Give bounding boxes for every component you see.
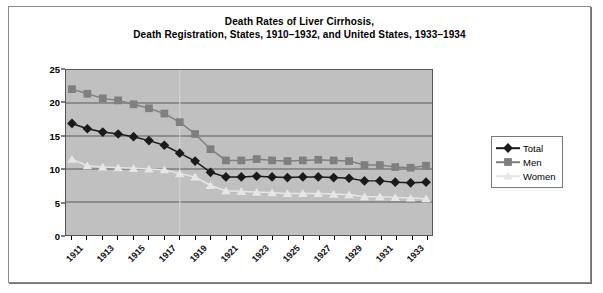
- legend-marker-diamond-icon: [496, 142, 520, 154]
- y-axis-tick-label: 15: [49, 130, 60, 141]
- x-axis-tick-label: 1925: [281, 243, 302, 264]
- y-axis-tick-label: 20: [49, 97, 60, 108]
- x-axis-tick-mark: [396, 236, 397, 240]
- x-axis-tick-label: 1923: [250, 243, 271, 264]
- chart-title-line-2: Death Registration, States, 1910–1932, a…: [9, 28, 590, 41]
- x-axis-tick-mark: [257, 236, 258, 240]
- chart-svg: [66, 70, 432, 235]
- x-axis-tick-mark: [334, 236, 335, 240]
- legend-item-men[interactable]: Men: [496, 155, 557, 169]
- y-axis-tick-mark: [61, 102, 65, 103]
- x-axis-tick-mark: [117, 236, 118, 240]
- y-axis-tick-mark: [61, 135, 65, 136]
- plot-area: [65, 69, 433, 236]
- plot-area-wrapper: Rate per 100,000 Population 0510152025 1…: [65, 69, 433, 236]
- y-axis-tick-mark: [61, 69, 65, 70]
- legend-item-women[interactable]: Women: [496, 169, 557, 183]
- x-axis-tick-mark: [272, 236, 273, 240]
- x-axis-tick-mark: [210, 236, 211, 240]
- legend-marker-square-icon: [496, 156, 520, 168]
- x-axis-tick-label: 1915: [126, 243, 147, 264]
- x-axis-tick-label: 1931: [373, 243, 394, 264]
- x-axis-tick-mark: [365, 236, 366, 240]
- y-axis-tick-label: 25: [49, 64, 60, 75]
- chart-legend: TotalMenWomen: [491, 136, 563, 188]
- x-axis-tick-label: 1911: [64, 243, 85, 264]
- x-axis-tick-mark: [148, 236, 149, 240]
- legend-item-total[interactable]: Total: [496, 141, 557, 155]
- x-axis-tick-mark: [288, 236, 289, 240]
- x-axis-tick-mark: [164, 236, 165, 240]
- y-axis-tick-label: 0: [55, 231, 60, 242]
- x-axis-tick-label: 1917: [157, 243, 178, 264]
- x-axis-tick-mark: [350, 236, 351, 240]
- y-axis-tick-label: 10: [49, 164, 60, 175]
- x-axis-tick-mark: [86, 236, 87, 240]
- legend-label: Women: [523, 171, 556, 182]
- x-axis-tick-label: 1927: [311, 243, 332, 264]
- chart-figure: Death Rates of Liver Cirrhosis, Death Re…: [8, 6, 591, 283]
- x-axis-tick-mark: [241, 236, 242, 240]
- y-axis-tick-label: 5: [55, 197, 60, 208]
- chart-title-line-1: Death Rates of Liver Cirrhosis,: [9, 15, 590, 28]
- legend-marker-triangle-icon: [496, 170, 520, 182]
- x-axis-tick-mark: [71, 236, 72, 240]
- x-axis-tick-label: 1921: [219, 243, 240, 264]
- x-axis-tick-mark: [381, 236, 382, 240]
- x-axis-tick-mark: [427, 236, 428, 240]
- y-axis-tick-mark: [61, 202, 65, 203]
- y-axis-tick-mark: [61, 236, 65, 237]
- x-axis-tick-mark: [303, 236, 304, 240]
- x-axis-tick-label: 1929: [342, 243, 363, 264]
- x-axis-tick-mark: [179, 236, 180, 240]
- x-axis-tick-label: 1933: [404, 243, 425, 264]
- x-axis-tick-mark: [102, 236, 103, 240]
- x-axis-tick-mark: [133, 236, 134, 240]
- y-axis-tick-mark: [61, 169, 65, 170]
- chart-title: Death Rates of Liver Cirrhosis, Death Re…: [9, 15, 590, 41]
- x-axis-tick-mark: [195, 236, 196, 240]
- x-axis-tick-mark: [412, 236, 413, 240]
- x-axis-tick-mark: [226, 236, 227, 240]
- x-axis-tick-label: 1919: [188, 243, 209, 264]
- legend-label: Men: [523, 157, 541, 168]
- x-axis-tick-label: 1913: [95, 243, 116, 264]
- x-axis-tick-mark: [319, 236, 320, 240]
- legend-label: Total: [523, 143, 543, 154]
